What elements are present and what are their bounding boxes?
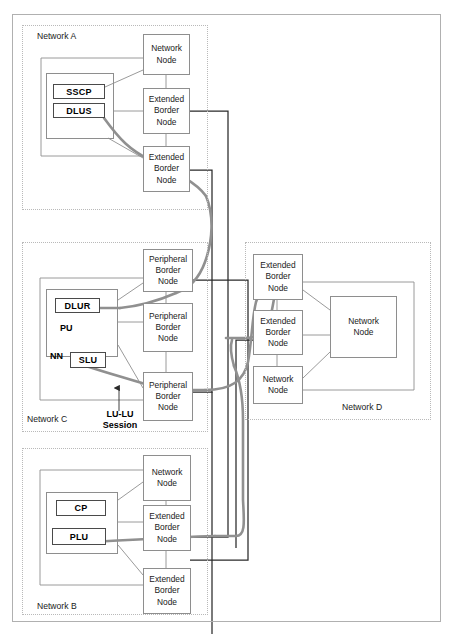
node-line: Border [265, 271, 290, 282]
node-line: Extended [260, 316, 295, 327]
node-line: Border [265, 327, 290, 338]
diagram-canvas: Network A SSCP DLUS Network Node Extende… [0, 0, 456, 637]
node-line: Extended [149, 511, 184, 522]
node-line: Node [353, 327, 373, 338]
node-line: Border [154, 522, 179, 533]
tag-dlur: DLUR [55, 298, 100, 313]
node-a-extended-border-node-2: Extended Border Node [143, 146, 190, 192]
node-b-extended-border-node-2: Extended Border Node [143, 568, 191, 614]
network-a-label: Network A [37, 31, 76, 41]
node-line: Node [156, 175, 176, 186]
node-d-network-node-right: Network Node [330, 296, 397, 358]
node-line: Peripheral [149, 311, 187, 322]
label-pu: PU [60, 323, 73, 333]
node-line: Node [156, 55, 176, 66]
lu-lu-session-annotation: LU-LU Session [91, 409, 149, 431]
node-c-peripheral-border-node-2: Peripheral Border Node [143, 303, 193, 352]
tag-sscp: SSCP [53, 84, 105, 99]
tag-plu: PLU [52, 528, 106, 545]
node-line: Extended [149, 94, 184, 105]
node-line: Node [268, 338, 288, 349]
node-line: Node [158, 276, 178, 287]
node-line: Network [348, 316, 379, 327]
node-line: Border [155, 391, 180, 402]
node-c-peripheral-border-node-1: Peripheral Border Node [143, 249, 193, 292]
network-d-label: Network D [342, 402, 382, 412]
node-line: Border [155, 322, 180, 333]
node-c-peripheral-border-node-3: Peripheral Border Node [143, 372, 193, 421]
node-line: Network [151, 43, 182, 54]
tag-slu: SLU [70, 352, 106, 368]
lu-lu-line-1: LU-LU [107, 409, 134, 419]
node-line: Node [157, 534, 177, 545]
lu-lu-line-2: Session [103, 420, 138, 430]
node-line: Border [155, 265, 180, 276]
node-line: Border [154, 105, 179, 116]
node-b-network-node: Network Node [143, 455, 191, 501]
node-d-extended-border-node-1: Extended Border Node [253, 254, 303, 300]
node-line: Network [152, 467, 183, 478]
node-line: Node [158, 402, 178, 413]
tag-dlus: DLUS [53, 103, 105, 118]
node-line: Extended [149, 574, 184, 585]
label-nn: NN [50, 351, 63, 361]
node-d-network-node-lower: Network Node [253, 366, 303, 404]
node-line: Border [154, 585, 179, 596]
node-line: Node [268, 283, 288, 294]
node-line: Node [156, 117, 176, 128]
node-line: Extended [149, 152, 184, 163]
node-line: Peripheral [149, 380, 187, 391]
node-line: Peripheral [149, 254, 187, 265]
node-line: Border [154, 163, 179, 174]
network-c-label: Network C [27, 414, 67, 424]
node-b-extended-border-node-1: Extended Border Node [143, 505, 191, 551]
node-a-extended-border-node-1: Extended Border Node [143, 88, 190, 134]
node-d-extended-border-node-2: Extended Border Node [253, 310, 303, 355]
node-line: Node [158, 333, 178, 344]
node-line: Extended [260, 260, 295, 271]
node-line: Node [268, 385, 288, 396]
node-line: Node [157, 597, 177, 608]
node-line: Network [263, 374, 294, 385]
node-a-network-node: Network Node [143, 34, 190, 75]
tag-cp: CP [56, 500, 106, 516]
network-b-label: Network B [37, 601, 77, 611]
node-line: Node [157, 478, 177, 489]
